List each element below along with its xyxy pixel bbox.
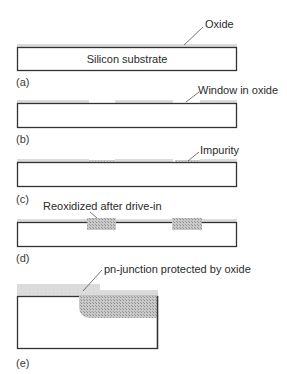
oxide-layer xyxy=(200,159,237,162)
impurity-region xyxy=(175,160,200,162)
oxide-layer xyxy=(17,159,89,162)
impurity-region xyxy=(89,160,115,162)
pn-junction-region xyxy=(79,296,158,318)
annotation-label: Window in oxide xyxy=(198,84,278,96)
panel-caption: (a) xyxy=(16,76,29,88)
leader-line xyxy=(184,27,203,45)
oxide-layer xyxy=(115,159,173,162)
annotation-label: pn-junction protected by oxide xyxy=(104,263,251,275)
leader-line xyxy=(90,212,97,218)
annotation-label: Reoxidized after drive-in xyxy=(43,200,162,212)
oxide-layer xyxy=(17,219,237,222)
substrate-label: Silicon substrate xyxy=(17,53,237,65)
oxide-layer xyxy=(115,100,173,103)
panel-caption: (d) xyxy=(16,252,29,264)
oxide-layer xyxy=(100,290,158,296)
silicon-substrate xyxy=(18,223,237,247)
impurity-region xyxy=(87,218,116,230)
panel-caption: (c) xyxy=(16,193,29,205)
panel-d xyxy=(17,212,237,247)
silicon-substrate xyxy=(18,163,237,187)
oxide-layer xyxy=(17,100,89,103)
panel-caption: (e) xyxy=(16,357,29,369)
oxide-layer xyxy=(200,100,237,103)
annotation-label: Oxide xyxy=(205,18,234,30)
annotation-label: Impurity xyxy=(200,144,239,156)
impurity-region xyxy=(172,218,202,230)
panel-caption: (b) xyxy=(16,133,29,145)
panel-e xyxy=(17,270,158,349)
silicon-substrate xyxy=(18,104,237,128)
panel-b xyxy=(17,92,237,128)
oxide-layer xyxy=(17,44,237,47)
panel-c xyxy=(17,152,237,187)
leader-line xyxy=(188,152,199,161)
